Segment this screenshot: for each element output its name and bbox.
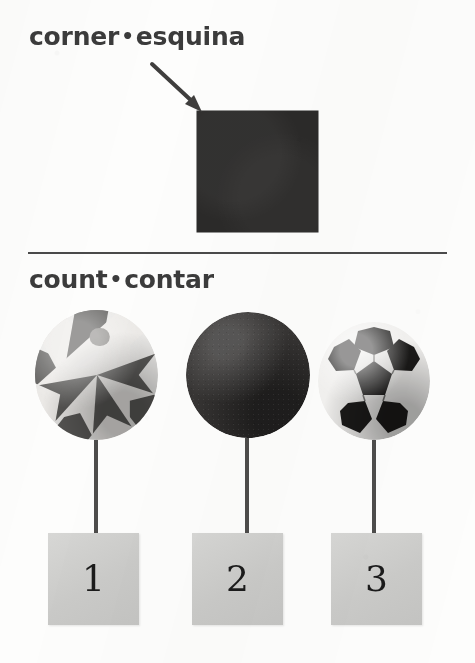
soccer-ball-shading [318, 322, 430, 440]
entry-heading-corner-spanish: esquina [136, 22, 245, 51]
dark-square-illustration [197, 111, 318, 232]
solid-ball-texture [186, 312, 310, 438]
entry-heading-count: count•contar [29, 265, 214, 294]
connector-line [245, 438, 249, 535]
beach-ball-shading [35, 310, 158, 440]
entry-heading-corner-english: corner [29, 22, 119, 51]
connector-line [372, 440, 376, 535]
soccer-ball-icon [318, 322, 430, 440]
entry-heading-corner-separator: • [119, 24, 136, 48]
number-tile: 2 [192, 533, 283, 625]
solid-ball-icon [186, 312, 310, 438]
entry-heading-count-english: count [29, 265, 108, 294]
arrow-icon [148, 60, 210, 118]
section-divider [28, 252, 447, 254]
connector-line [94, 440, 98, 535]
entry-heading-count-separator: • [108, 267, 125, 291]
beach-ball-icon [35, 310, 158, 440]
entry-heading-count-spanish: contar [124, 265, 214, 294]
number-tile: 1 [48, 533, 139, 625]
picture-dictionary-page: corner•esquina count•contar [0, 0, 475, 663]
entry-heading-corner: corner•esquina [29, 22, 245, 51]
number-tile: 3 [331, 533, 422, 625]
